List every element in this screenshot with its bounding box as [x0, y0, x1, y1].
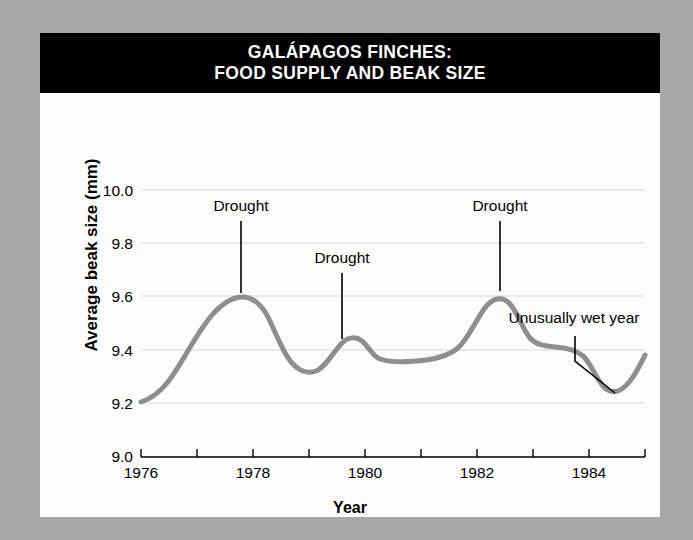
y-axis-tick-labels: 10.0 9.8 9.6 9.4 9.2 9.0	[103, 182, 134, 465]
drought-1-label: Drought	[213, 197, 269, 214]
x-axis-tick-labels: 1976 1978 1980 1982 1984	[124, 464, 607, 481]
x-tick-label-1984: 1984	[572, 464, 607, 481]
figure-card: GALÁPAGOS FINCHES: FOOD SUPPLY AND BEAK …	[40, 33, 660, 517]
title-line-2: FOOD SUPPLY AND BEAK SIZE	[214, 63, 485, 84]
y-tick-label-9.4: 9.4	[111, 342, 133, 359]
y-tick-label-9.8: 9.8	[111, 235, 133, 252]
gridlines	[141, 190, 645, 403]
figure-root: GALÁPAGOS FINCHES: FOOD SUPPLY AND BEAK …	[0, 0, 693, 540]
annotations: Drought Drought Drought Unusually wet ye…	[213, 197, 639, 393]
wet-year-label: Unusually wet year	[509, 309, 640, 326]
x-tick-label-1982: 1982	[460, 464, 494, 481]
y-tick-label-9.0: 9.0	[111, 448, 133, 465]
wet-year-leader-line	[575, 336, 615, 393]
line-chart: 10.0 9.8 9.6 9.4 9.2 9.0	[40, 93, 660, 517]
y-tick-label-9.2: 9.2	[111, 395, 133, 412]
drought-2-label: Drought	[314, 249, 370, 266]
y-tick-label-10.0: 10.0	[103, 182, 134, 199]
x-axis-tick-marks	[141, 449, 645, 457]
title-banner: GALÁPAGOS FINCHES: FOOD SUPPLY AND BEAK …	[40, 33, 660, 93]
title-line-1: GALÁPAGOS FINCHES:	[248, 42, 452, 63]
drought-3-label: Drought	[472, 197, 528, 214]
x-tick-label-1978: 1978	[236, 464, 270, 481]
x-tick-label-1976: 1976	[124, 464, 158, 481]
y-tick-label-9.6: 9.6	[111, 288, 133, 305]
x-tick-label-1980: 1980	[348, 464, 383, 481]
x-axis-title: Year	[40, 499, 660, 517]
plot-area: 10.0 9.8 9.6 9.4 9.2 9.0	[40, 93, 660, 517]
y-axis-title: Average beak size (mm)	[82, 125, 102, 385]
